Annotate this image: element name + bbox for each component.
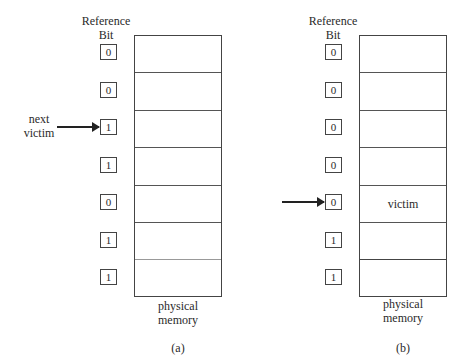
memory-label-line2: memory: [373, 312, 433, 325]
physical-memory-column: victim: [359, 35, 447, 297]
reference-bit-box: 0: [325, 44, 342, 60]
panel-b: Reference Bit 0 0 0 0 0 1 1 victim physi…: [0, 0, 469, 364]
reference-bit-box: 0: [325, 157, 342, 173]
reference-bit-header-line1: Reference: [303, 15, 363, 28]
reference-bit-box: 1: [325, 269, 342, 285]
reference-bit-box: 0: [325, 119, 342, 135]
memory-frame: [360, 260, 446, 296]
reference-bit-header-line2: Bit: [303, 29, 363, 42]
memory-frame: [360, 111, 446, 148]
victim-frame: victim: [360, 186, 446, 223]
memory-frame: [360, 223, 446, 260]
reference-bit-box: 1: [325, 232, 342, 248]
memory-frame: [360, 73, 446, 111]
reference-bit-box: 0: [325, 82, 342, 98]
reference-bit-box: 0: [325, 194, 342, 210]
panel-caption: (b): [383, 342, 423, 355]
memory-frame: [360, 148, 446, 186]
victim-pointer-arrow-icon: [282, 201, 324, 203]
memory-frame: [360, 36, 446, 73]
memory-label-line1: physical: [373, 298, 433, 311]
